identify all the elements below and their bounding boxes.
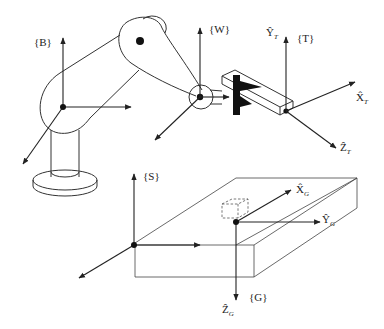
robot-base-plate — [33, 170, 97, 196]
robot-frames-diagram: {B} {W} {T} ŶT X̂T ẐT {S} {G} X̂G ŶG ẐG — [0, 0, 384, 329]
frame-G-label: {G} — [249, 291, 268, 303]
frame-T: {T} ŶT X̂T ẐT — [266, 26, 369, 156]
goal-block-dashed — [222, 199, 248, 218]
frame-B: {B} — [23, 36, 131, 164]
goal-x-axis-label: X̂G — [296, 183, 309, 198]
diagram-canvas: {B} {W} {T} ŶT X̂T ẐT {S} {G} X̂G ŶG ẐG — [0, 0, 384, 329]
tool-x-axis-label: X̂T — [356, 91, 369, 106]
station-table — [135, 178, 357, 277]
tool-y-axis-label: ŶT — [266, 26, 279, 41]
frame-T-label: {T} — [297, 32, 314, 44]
frame-B-label: {B} — [34, 36, 52, 48]
robot-forearm — [119, 16, 202, 96]
goal-y-axis-label: ŶG — [322, 213, 335, 228]
gripper — [222, 70, 293, 115]
elbow-joint-dot — [136, 37, 144, 45]
frame-S-label: {S} — [143, 170, 160, 182]
frame-W: {W} — [155, 23, 230, 140]
frame-W-label: {W} — [209, 23, 230, 35]
tool-z-axis-label: ẐT — [340, 141, 352, 156]
goal-z-axis-label: ẐG — [222, 303, 234, 318]
